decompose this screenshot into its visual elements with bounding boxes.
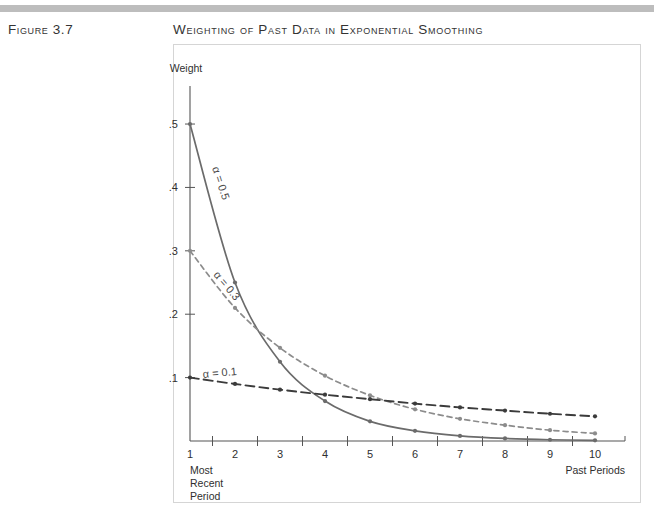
series-data-point <box>503 408 507 412</box>
x-tick-label: 6 <box>412 448 418 460</box>
y-tick-label: .1 <box>169 372 178 384</box>
series-label-alpha-05: α = 0.5 <box>210 165 232 201</box>
x-axis-left-caption-line1: Most <box>190 464 213 476</box>
series-data-point <box>458 405 462 409</box>
series-data-point <box>278 346 282 350</box>
series-line <box>190 378 595 417</box>
x-tick-label: 9 <box>547 448 553 460</box>
series-data-point <box>188 249 192 253</box>
series-data-point <box>458 434 462 438</box>
x-tick-label: 2 <box>232 448 238 460</box>
exponential-smoothing-chart: .1.2.3.4.5 12345678910 Weight Most Recen… <box>0 0 654 523</box>
series-line <box>190 251 595 434</box>
series-data-point <box>368 419 372 423</box>
series-data-point <box>413 402 417 406</box>
series-data-point <box>278 360 282 364</box>
series-data-point <box>548 438 552 442</box>
x-tick-label: 7 <box>457 448 463 460</box>
series-data-point <box>503 436 507 440</box>
series-data-point <box>188 376 192 380</box>
series-label-alpha-03: α = 0.3 <box>211 269 242 303</box>
y-tick-label: .5 <box>169 118 178 130</box>
y-tick-label: .3 <box>169 245 178 257</box>
series-data-point <box>278 388 282 392</box>
x-tick-label: 3 <box>277 448 283 460</box>
series-data-point <box>233 306 237 310</box>
series-data-point <box>323 374 327 378</box>
y-axis-title: Weight <box>170 62 203 74</box>
y-tick-label: .4 <box>169 181 178 193</box>
series-data-point <box>323 399 327 403</box>
series-data-point <box>188 122 192 126</box>
series-data-point <box>593 431 597 435</box>
series-data-point <box>413 429 417 433</box>
series-data-point <box>503 423 507 427</box>
x-axis-left-caption-line3: Period <box>190 490 221 502</box>
x-axis-left-caption-line2: Recent <box>190 477 223 489</box>
x-axis-right-caption: Past Periods <box>565 464 625 476</box>
series-data-point <box>413 407 417 411</box>
series-data-point <box>233 382 237 386</box>
x-tick-label: 5 <box>367 448 373 460</box>
x-tick-label: 8 <box>502 448 508 460</box>
x-tick-label: 1 <box>187 448 193 460</box>
y-tick-label: .2 <box>169 308 178 320</box>
series-data-point <box>368 397 372 401</box>
series-label-alpha-01: α = 0.1 <box>202 365 237 380</box>
series-line <box>190 124 595 440</box>
series-annotations: α = 0.5 α = 0.3 α = 0.1 <box>202 165 243 380</box>
series-data-point <box>593 438 597 442</box>
series-data-point <box>368 393 372 397</box>
x-tick-label: 10 <box>589 448 601 460</box>
x-tick-label: 4 <box>322 448 328 460</box>
chart-series <box>188 122 597 443</box>
chart-axes <box>190 86 625 441</box>
series-data-point <box>548 428 552 432</box>
series-data-point <box>548 412 552 416</box>
series-data-point <box>458 417 462 421</box>
series-data-point <box>323 393 327 397</box>
series-data-point <box>593 414 597 418</box>
